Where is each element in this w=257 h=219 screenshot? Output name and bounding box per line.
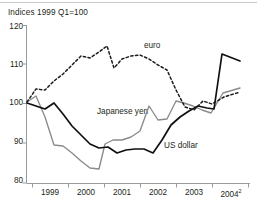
series-line-japanese-yen [27,88,240,169]
series-paths [27,46,240,169]
series-line-us-dollar [27,54,240,153]
plot-canvas [0,0,257,219]
x-axis-ticks [33,184,249,188]
series-line-euro [27,46,240,110]
y-axis-ticks [23,26,27,184]
currency-indices-chart: Indices 1999 Q1=100 120 110 100 90 80 19… [0,0,257,219]
